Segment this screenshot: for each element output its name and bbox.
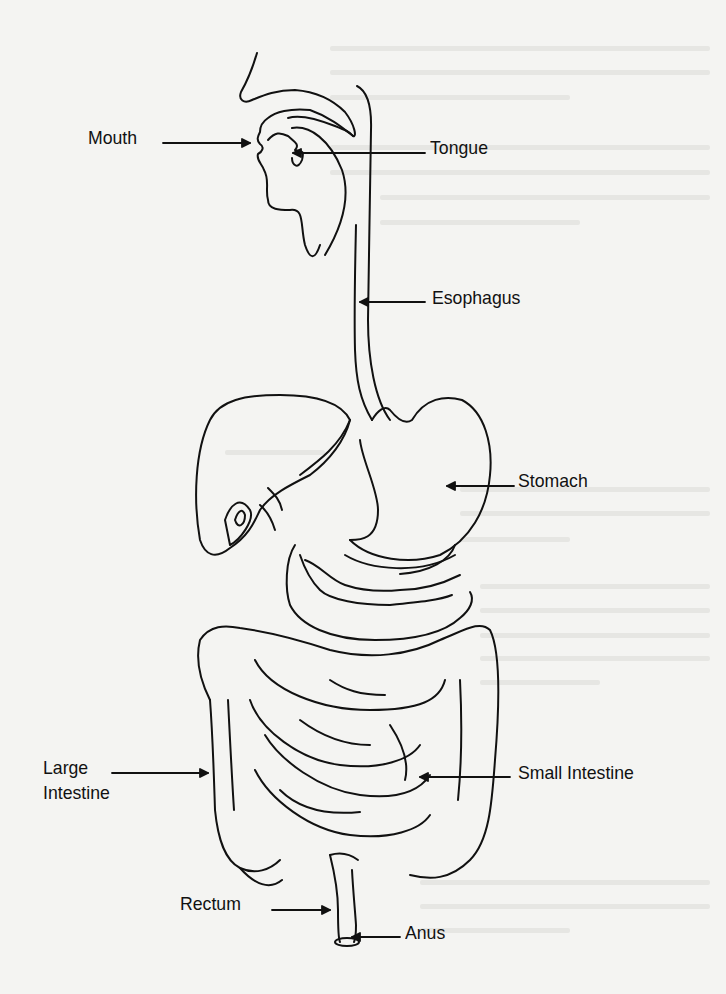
leader-lines (112, 139, 514, 941)
label-large-intestine-line1: Large (43, 757, 88, 779)
large-intestine (198, 626, 498, 885)
label-anus: Anus (405, 922, 445, 944)
digestive-system-diagram (0, 0, 726, 994)
liver (196, 395, 350, 555)
rectum (330, 854, 358, 942)
small-intestine (250, 660, 445, 836)
label-rectum: Rectum (180, 893, 241, 915)
esophagus (355, 86, 390, 420)
label-tongue: Tongue (430, 137, 488, 159)
label-esophagus: Esophagus (432, 287, 520, 309)
label-large-intestine-line2: Intestine (43, 782, 110, 804)
label-mouth: Mouth (88, 127, 137, 149)
label-small-intestine: Small Intestine (518, 762, 634, 784)
label-stomach: Stomach (518, 470, 588, 492)
